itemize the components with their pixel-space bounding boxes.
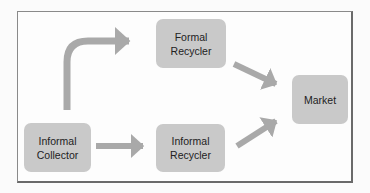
- node-informal-collector: Informal Collector: [24, 123, 91, 172]
- node-informal-recycler: Informal Recycler: [156, 124, 225, 172]
- node-informal-recycler-line2: Recycler: [170, 148, 211, 162]
- node-informal-collector-line1: Informal: [37, 134, 78, 148]
- node-market-label: Market: [304, 93, 336, 107]
- node-market: Market: [292, 75, 348, 124]
- arrow-informal-recycler-to-market: [237, 121, 276, 146]
- node-formal-recycler: Formal Recycler: [156, 19, 226, 68]
- node-informal-recycler-line1: Informal: [170, 134, 211, 148]
- node-formal-recycler-line1: Formal: [171, 30, 212, 44]
- node-informal-collector-line2: Collector: [37, 148, 78, 162]
- arrow-formal-to-market: [234, 64, 276, 84]
- node-formal-recycler-line2: Recycler: [171, 44, 212, 58]
- arrow-collector-to-formal: [67, 41, 129, 110]
